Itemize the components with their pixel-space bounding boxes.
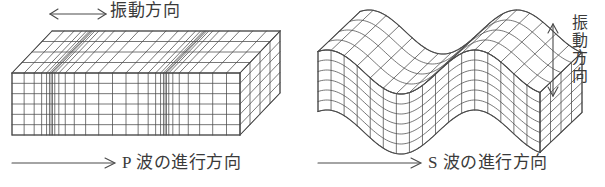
p-wave-oscillation-label: 振動方向 xyxy=(110,2,180,19)
s-wave-oscillation-label: 振動方向 xyxy=(570,14,586,84)
s-wave-direction-label: S 波の進行方向 xyxy=(428,154,548,171)
p-wave-direction-label: P 波の進行方向 xyxy=(122,154,241,171)
